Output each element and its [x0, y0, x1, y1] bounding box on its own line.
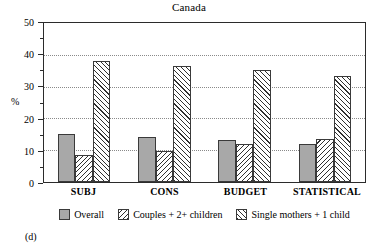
y-tick-major: [38, 183, 43, 184]
bar-cons-couples-2-children: [156, 151, 174, 182]
legend-item-couples: Couples + 2+ children: [118, 209, 222, 220]
bar-subj-overall: [58, 134, 76, 182]
x-category-label-2: BUDGET: [205, 186, 286, 197]
gridline-40: [44, 55, 365, 56]
y-axis: 50 40 30 20 10 0: [0, 0, 40, 251]
chart-legend: Overall Couples + 2+ children Single mot…: [43, 205, 366, 223]
plot-area: [43, 22, 366, 183]
plot-inner: [44, 23, 365, 182]
bar-statistical-overall: [299, 144, 317, 182]
legend-swatch-icon-couples: [118, 209, 129, 220]
y-tick-label: 0: [29, 178, 34, 189]
bar-cons-overall: [138, 137, 156, 182]
legend-label-couples: Couples + 2+ children: [133, 209, 222, 220]
legend-label-single-mothers: Single mothers + 1 child: [251, 209, 349, 220]
y-tick-label: 10: [24, 146, 34, 157]
x-category-label-3: STATISTICAL: [284, 186, 370, 197]
bar-subj-single-mothers-1-child: [93, 61, 111, 182]
bar-statistical-couples-2-children: [316, 139, 334, 182]
legend-swatch-icon-overall: [59, 209, 70, 220]
bar-subj-couples-2-children: [75, 155, 93, 182]
legend-label-overall: Overall: [74, 209, 104, 220]
legend-swatch-icon-single-mothers: [236, 209, 247, 220]
panel-label: (d): [25, 231, 37, 242]
chart-title: Canada: [0, 1, 378, 13]
y-tick-label: 30: [24, 81, 34, 92]
chart-figure: Canada 50 40 30 20 10 0 % SUBJ CONS BUDG…: [0, 0, 378, 251]
x-category-label-0: SUBJ: [43, 186, 124, 197]
y-tick-label: 50: [24, 17, 34, 28]
bar-statistical-single-mothers-1-child: [334, 76, 352, 182]
bar-cons-single-mothers-1-child: [173, 66, 191, 182]
y-axis-unit-label: %: [11, 96, 19, 107]
y-tick-label: 20: [24, 114, 34, 125]
y-tick-label: 40: [24, 49, 34, 60]
bar-budget-overall: [218, 140, 236, 182]
x-category-label-1: CONS: [124, 186, 205, 197]
bar-budget-single-mothers-1-child: [253, 70, 271, 182]
legend-item-single-mothers: Single mothers + 1 child: [236, 209, 349, 220]
bar-budget-couples-2-children: [236, 144, 254, 182]
legend-item-overall: Overall: [59, 209, 104, 220]
